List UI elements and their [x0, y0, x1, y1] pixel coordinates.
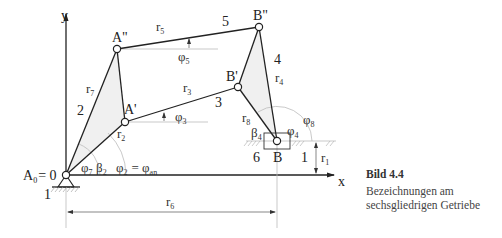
link-number-3: 3: [215, 95, 222, 110]
label-B: B: [273, 150, 282, 165]
joint-A0: [62, 171, 69, 178]
label-beta4: β4: [251, 125, 262, 142]
label-phi5: φ5: [178, 49, 190, 66]
link-number-2: 2: [77, 103, 84, 118]
link-r5: [117, 27, 259, 49]
link-number-6: 6: [253, 150, 260, 165]
caption-line-2: sechsgliedrigen Getriebe: [366, 198, 502, 212]
label-beta2: β2: [96, 160, 107, 177]
link-number-5: 5: [222, 14, 229, 29]
link-number-1-ground: 1: [44, 187, 51, 202]
label-B2: B": [253, 8, 268, 23]
label-phi8: φ8: [303, 112, 315, 129]
caption-line-1: Bezeichnungen am: [366, 184, 502, 198]
label-r4: r4: [275, 70, 283, 87]
label-r1: r1: [321, 150, 329, 167]
label-phi3: φ3: [175, 109, 187, 126]
label-phi2: φ2= φan: [116, 160, 157, 177]
joint-B1: [234, 83, 241, 90]
x-axis-label: x: [338, 174, 345, 189]
label-r8: r8: [242, 110, 250, 127]
label-r2: r2: [117, 126, 125, 143]
caption-title: Bild 4.4: [366, 168, 502, 180]
joint-B: [273, 137, 280, 144]
link-number-1-slider: 1: [301, 150, 308, 165]
joint-B2: [255, 23, 262, 30]
ground-hatch: [51, 187, 79, 192]
figure-caption: Bild 4.4 Bezeichnungen am sechsgliedrige…: [366, 168, 502, 212]
label-phi4: φ4: [287, 123, 299, 140]
joint-A2: [113, 45, 120, 52]
y-axis-label: y: [61, 8, 68, 23]
label-A1: A': [124, 102, 137, 117]
joint-A1: [121, 118, 128, 125]
label-A0: A0= 0: [23, 168, 57, 185]
label-A2: A": [112, 30, 128, 45]
label-r3: r3: [183, 80, 191, 97]
label-r5: r5: [156, 19, 164, 36]
label-r7: r7: [86, 81, 94, 98]
caption-text: Bezeichnungen am sechsgliedrigen Getrieb…: [366, 184, 502, 212]
label-r6: r6: [166, 194, 174, 211]
label-phi7: φ7: [81, 160, 93, 177]
link-number-4: 4: [274, 52, 281, 67]
six-bar-linkage-diagram: y x A0= 0 A' A" B': [0, 0, 360, 238]
link-2-triangle-fill: [66, 49, 125, 175]
label-B1: B': [226, 69, 238, 84]
